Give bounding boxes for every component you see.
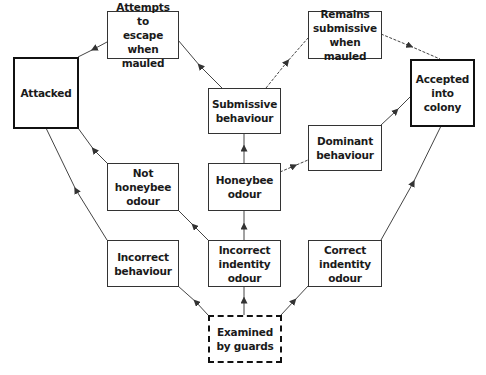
edge-examined-to-incorrect-behaviour	[178, 286, 208, 315]
node-dominant-behaviour: Dominant behaviour	[308, 125, 382, 171]
node-examined-by-guards: Examined by guards	[208, 315, 282, 363]
node-remains-submissive: Remains submissive when mauled	[308, 11, 382, 59]
edge-incorrect-identity-to-not-honeybee	[178, 210, 208, 240]
node-incorrect-identity-odour: Incorrect indentity odour	[208, 240, 281, 287]
edge-honeybee-to-dominant	[280, 160, 308, 172]
node-not-honeybee-odour: Not honeybee odour	[107, 163, 179, 211]
node-submissive-behaviour: Submissive behaviour	[208, 88, 281, 134]
edge-incorrect-behaviour-to-attacked	[46, 128, 107, 240]
node-incorrect-behaviour: Incorrect behaviour	[107, 240, 179, 287]
node-attempts-to-escape: Attempts to escape when mauled	[107, 11, 179, 59]
edge-dominant-to-accepted	[381, 97, 410, 125]
node-accepted-into-colony: Accepted into colony	[410, 59, 475, 127]
edge-remains-submissive-to-accepted	[381, 34, 440, 59]
node-correct-identity-odour: Correct indentity odour	[308, 240, 382, 287]
edge-examined-to-correct-identity	[281, 286, 308, 315]
edge-submissive-to-remains-submissive	[266, 38, 308, 88]
edge-attempts-escape-to-attacked	[78, 42, 107, 57]
edge-submissive-to-attempts-escape	[178, 40, 222, 88]
edge-correct-identity-to-accepted	[381, 126, 441, 240]
node-attacked: Attacked	[13, 57, 79, 129]
edge-not-honeybee-to-attacked	[78, 128, 107, 163]
node-honeybee-odour: Honeybee odour	[208, 163, 281, 211]
flowchart-diagram: Attempts to escape when mauled Remains s…	[0, 0, 486, 375]
